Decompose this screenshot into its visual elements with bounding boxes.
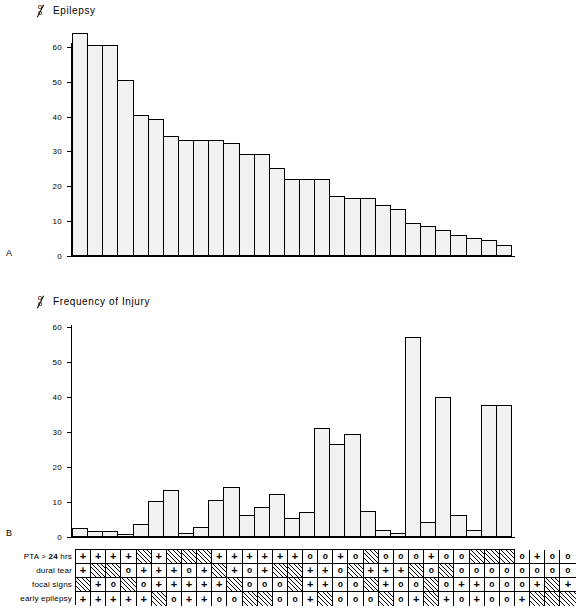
table-cell: o (500, 564, 515, 578)
table-cell (379, 592, 394, 606)
table-cell: + (515, 592, 530, 606)
table-cell: o (560, 550, 575, 564)
table-cell: o (243, 578, 258, 592)
bar (178, 533, 194, 537)
table-cell: o (167, 592, 182, 606)
bar (239, 515, 255, 537)
table-cell: o (515, 564, 530, 578)
table-cell: + (76, 550, 91, 564)
table-cell: + (137, 564, 152, 578)
table-cell: o (530, 564, 545, 578)
table-cell: + (303, 592, 318, 606)
table-row: +++++++++++oo+oooo+ooo+oo (76, 550, 514, 564)
table-cell: + (167, 564, 182, 578)
axis-tick (67, 397, 71, 398)
table-cell (530, 592, 545, 606)
table-cell: + (409, 592, 424, 606)
table-cell: o (243, 564, 258, 578)
table-cell: + (243, 550, 258, 564)
table-cell: o (348, 592, 363, 606)
bar (405, 337, 421, 537)
table-cell: o (515, 550, 530, 564)
table-cell: + (439, 592, 454, 606)
table-cell: + (560, 578, 575, 592)
table-row-label-1: dural tear (36, 566, 72, 575)
bar (133, 524, 149, 537)
table-cell: + (454, 578, 469, 592)
axis-tick (67, 327, 71, 328)
table-cell: o (227, 592, 242, 606)
table-row: +o+++o++o+++o+++ooooooooo (76, 564, 514, 578)
bar (450, 515, 466, 537)
table-cell (424, 592, 439, 606)
axis-tick-label: 20 (46, 463, 62, 472)
table-cell: + (318, 578, 333, 592)
table-cell (364, 550, 379, 564)
table-cell: o (273, 578, 288, 592)
table-cell (348, 564, 363, 578)
table-cell: o (273, 592, 288, 606)
table-cell: + (303, 564, 318, 578)
panel-b-frequency: o o Frequency of Injury B 0102030405060 (0, 0, 525, 545)
table-cell: + (470, 592, 485, 606)
bar (360, 511, 376, 537)
table-cell: o (439, 578, 454, 592)
table-cell: + (379, 578, 394, 592)
bar (163, 490, 179, 537)
table-cell: + (364, 564, 379, 578)
bar (314, 428, 330, 537)
table-cell: o (348, 578, 363, 592)
table-cell: + (273, 550, 288, 564)
bar (435, 397, 451, 537)
table-cell: o (333, 592, 348, 606)
table-cell (545, 592, 560, 606)
table-cell: + (197, 592, 212, 606)
table-cell: + (379, 564, 394, 578)
table-cell (197, 550, 212, 564)
bar (72, 528, 88, 537)
bar (87, 531, 103, 537)
table-cell: o (424, 564, 439, 578)
axis-tick-label: 50 (46, 358, 62, 367)
table-cell (500, 550, 515, 564)
table-cell: o (485, 578, 500, 592)
table-cell: + (91, 550, 106, 564)
table-cell (182, 550, 197, 564)
table-cell: + (197, 578, 212, 592)
table-cell: o (333, 564, 348, 578)
table-cell: o (333, 578, 348, 592)
table-cell: o (439, 550, 454, 564)
table-cell: + (121, 550, 136, 564)
axis-tick-label: 60 (46, 323, 62, 332)
table-cell (424, 578, 439, 592)
table-cell: + (227, 564, 242, 578)
table-cell (152, 592, 167, 606)
table-cell: o (454, 550, 469, 564)
table-cell (167, 550, 182, 564)
table-cell: + (197, 564, 212, 578)
table-cell (364, 578, 379, 592)
table-cell (409, 564, 424, 578)
table-cell: o (394, 578, 409, 592)
table-cell (91, 564, 106, 578)
bar (420, 522, 436, 537)
table-cell: + (394, 564, 409, 578)
axis-tick (67, 467, 71, 468)
table-cell (273, 564, 288, 578)
table-cell: o (470, 564, 485, 578)
axis-tick-label: 30 (46, 428, 62, 437)
table-cell: + (91, 578, 106, 592)
table-cell (439, 564, 454, 578)
table-cell: o (121, 564, 136, 578)
axis-tick-label: 40 (46, 393, 62, 402)
table-cell (318, 592, 333, 606)
table-cell: + (76, 564, 91, 578)
bar (329, 444, 345, 537)
table-cell (137, 550, 152, 564)
table-cell (243, 592, 258, 606)
table-cell: + (137, 592, 152, 606)
table-cell: + (152, 564, 167, 578)
table-cell: o (545, 550, 560, 564)
table-cell (106, 564, 121, 578)
